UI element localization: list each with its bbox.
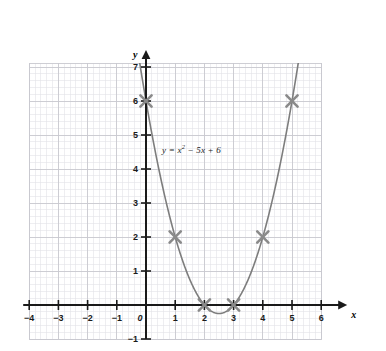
x-tick-label-6: 6 [319,313,324,323]
y-tick-label-4: 4 [122,164,138,174]
y-tick-label-3: 3 [122,198,138,208]
x-tick-label-neg2: −2 [82,313,92,323]
y-tick-label-7: 7 [122,62,138,72]
x-tick-label-neg4: −4 [24,313,34,323]
equation-annotation: y = x2 − 5x + 6 [162,143,221,155]
x-tick-label-5: 5 [289,313,294,323]
x-tick-label-3: 3 [231,313,236,323]
x-axis-label: x [351,309,356,320]
equation-rest: − 5x + 6 [188,145,222,155]
y-tick-label-6: 6 [122,96,138,106]
parabola-plot [0,0,386,351]
x-tick-label-4: 4 [260,313,265,323]
x-tick-label-0: 0 [137,313,142,323]
x-tick-label-1: 1 [173,313,178,323]
x-tick-label-neg1: −1 [112,313,122,323]
x-tick-label-2: 2 [202,313,207,323]
y-tick-label-1: 1 [122,266,138,276]
graph-figure: y = x2 − 5x + 6 x y −4−3−2−10123456−1123… [0,0,386,351]
y-tick-label-neg1: −1 [122,334,138,344]
y-axis-label: y [133,49,137,60]
y-tick-label-5: 5 [122,130,138,140]
x-tick-label-neg3: −3 [53,313,63,323]
y-tick-label-2: 2 [122,232,138,242]
equation-lhs: y = [162,145,175,155]
